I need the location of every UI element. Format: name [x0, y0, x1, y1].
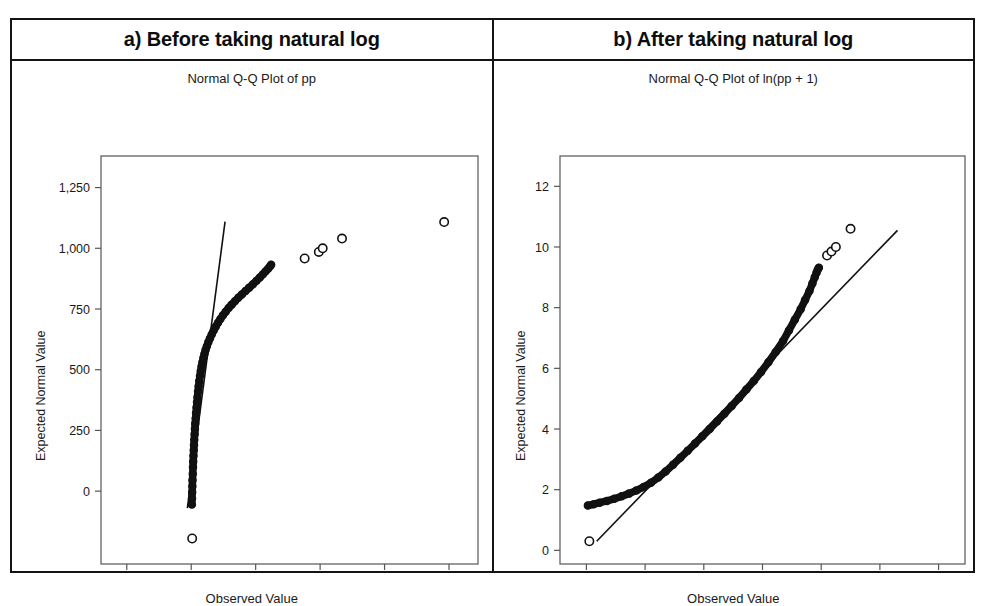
svg-text:1,250: 1,250	[59, 181, 90, 195]
svg-text:4: 4	[542, 423, 549, 437]
panel-header-b: b) After taking natural log	[494, 20, 974, 59]
panel-header-a: a) Before taking natural log	[12, 20, 494, 59]
panel-a: Normal Q-Q Plot of pp Expected Normal Va…	[12, 61, 494, 571]
svg-text:6: 6	[542, 362, 549, 376]
panel-header-row: a) Before taking natural log b) After ta…	[12, 20, 973, 61]
svg-text:0: 0	[542, 544, 549, 558]
panel-row: Normal Q-Q Plot of pp Expected Normal Va…	[12, 61, 973, 571]
svg-text:0: 0	[83, 485, 90, 499]
figure-container: a) Before taking natural log b) After ta…	[10, 18, 975, 573]
x-axis-label-a: Observed Value	[12, 591, 492, 606]
svg-text:12: 12	[535, 180, 549, 194]
svg-text:1,000: 1,000	[59, 242, 90, 256]
svg-text:500: 500	[69, 363, 90, 377]
qq-plot-b: 024681012024681012	[494, 61, 975, 575]
svg-text:250: 250	[69, 424, 90, 438]
svg-text:750: 750	[69, 303, 90, 317]
qq-plot-a: -2,00002,0004,0006,0008,00002505007501,0…	[12, 61, 492, 575]
svg-text:8: 8	[542, 301, 549, 315]
x-axis-label-b: Observed Value	[494, 591, 974, 606]
svg-text:2: 2	[542, 483, 549, 497]
svg-text:10: 10	[535, 241, 549, 255]
panel-b: Normal Q-Q Plot of ln(pp + 1) Expected N…	[494, 61, 974, 571]
